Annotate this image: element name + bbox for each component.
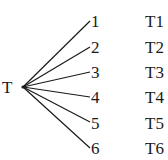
outcome-label-3: T3	[145, 64, 164, 81]
branch-line-3	[23, 72, 90, 87]
branch-label-5: 5	[91, 115, 100, 132]
branch-label-3: 3	[91, 64, 100, 81]
tree-branches	[0, 0, 168, 160]
root-node	[21, 85, 24, 88]
branch-line-6	[23, 87, 90, 148]
outcome-label-1: T1	[145, 13, 164, 30]
outcome-label-4: T4	[145, 89, 164, 106]
branch-label-4: 4	[91, 89, 100, 106]
outcome-label-6: T6	[145, 140, 164, 157]
branch-line-1	[23, 21, 90, 87]
branch-label-2: 2	[91, 39, 100, 56]
branch-label-1: 1	[91, 13, 100, 30]
outcome-label-5: T5	[145, 115, 164, 132]
outcome-label-2: T2	[145, 39, 164, 56]
root-label: T	[2, 79, 12, 96]
branch-line-2	[23, 47, 90, 87]
branch-label-6: 6	[91, 140, 100, 157]
